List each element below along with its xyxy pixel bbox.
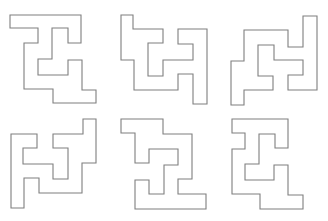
polyomino-shape-5 (121, 119, 206, 209)
polyomino-shape-1 (10, 15, 96, 103)
polyomino-shape-2 (121, 15, 207, 104)
polyomino-shape-6 (232, 119, 303, 209)
shapes-figure (0, 0, 328, 221)
figure-canvas (0, 0, 328, 221)
polyomino-shape-3 (231, 16, 317, 105)
polyomino-shape-4 (11, 119, 96, 208)
